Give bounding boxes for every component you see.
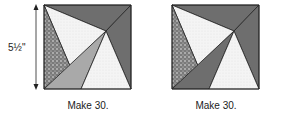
block-2-caption: Make 30. [166, 100, 266, 111]
dimension-arrow [34, 4, 39, 90]
dimension-label: 5½" [8, 42, 25, 53]
quilt-block-2 [172, 5, 259, 89]
block-1-caption: Make 30. [38, 100, 138, 111]
quilt-block-1 [44, 5, 131, 89]
